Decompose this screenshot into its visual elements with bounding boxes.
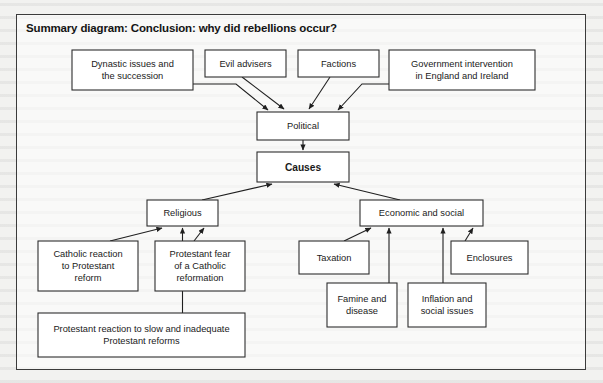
node-layer: Dynastic issues andthe successionEvil ad… — [38, 50, 535, 357]
node-taxation[interactable]: Taxation — [299, 241, 369, 274]
node-inflation[interactable]: Inflation andsocial issues — [408, 283, 486, 327]
node-protestant-fear[interactable]: Protestant fearof a Catholicreformation — [155, 241, 245, 291]
connector-taxation-to-economic — [344, 228, 371, 241]
node-causes[interactable]: Causes — [257, 152, 349, 182]
connector-religious-to-causes — [202, 184, 272, 200]
node-label-enclosures: Enclosures — [467, 253, 513, 263]
node-box-dynastic — [72, 50, 193, 90]
node-protestant-reaction[interactable]: Protestant reaction to slow and inadequa… — [38, 313, 245, 357]
node-label-causes: Causes — [285, 162, 322, 173]
node-factions[interactable]: Factions — [298, 50, 379, 77]
node-label-religious: Religious — [163, 208, 202, 218]
node-box-famine — [327, 283, 397, 327]
node-catholic[interactable]: Catholic reactionto Protestantreform — [38, 241, 138, 291]
diagram-page: Summary diagram: Conclusion: why did reb… — [0, 0, 603, 383]
connector-protestant-fear-to-religious — [194, 228, 204, 241]
node-famine[interactable]: Famine anddisease — [327, 283, 397, 327]
node-government[interactable]: Government interventionin England and Ir… — [389, 50, 535, 90]
node-economic[interactable]: Economic and social — [360, 200, 483, 226]
node-box-protestant-reaction — [38, 313, 245, 357]
connector-government-to-political — [338, 84, 389, 110]
summary-diagram: Dynastic issues andthe successionEvil ad… — [0, 0, 603, 383]
node-enclosures[interactable]: Enclosures — [451, 241, 528, 274]
node-box-government — [389, 50, 535, 90]
node-box-inflation — [408, 283, 486, 327]
node-label-evil-advisers: Evil advisers — [219, 59, 272, 69]
node-political[interactable]: Political — [257, 112, 349, 140]
connector-economic-to-causes — [334, 184, 400, 200]
connector-enclosures-to-economic — [465, 228, 473, 241]
node-label-economic: Economic and social — [379, 208, 464, 218]
node-dynastic[interactable]: Dynastic issues andthe succession — [72, 50, 193, 90]
node-label-taxation: Taxation — [317, 253, 352, 263]
connector-factions-to-political — [309, 77, 330, 109]
node-religious[interactable]: Religious — [147, 200, 218, 226]
connector-catholic-to-religious — [110, 228, 162, 241]
node-evil-advisers[interactable]: Evil advisers — [205, 50, 286, 77]
node-label-political: Political — [287, 121, 319, 131]
node-label-protestant-fear: Protestant fearof a Catholicreformation — [170, 249, 231, 283]
connector-evil-advisers-to-political — [242, 77, 284, 109]
node-label-factions: Factions — [321, 59, 356, 69]
